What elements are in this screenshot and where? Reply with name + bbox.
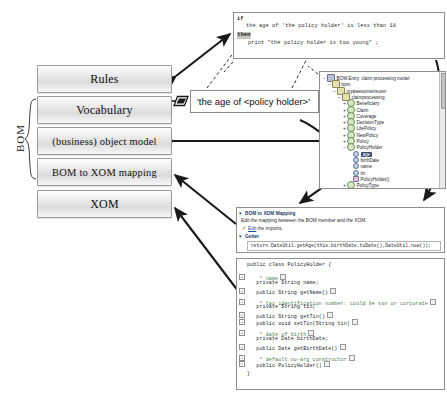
code-collapse-box-icon[interactable] xyxy=(349,355,355,361)
code-fold-icon[interactable]: + xyxy=(239,361,245,367)
stack-layer-vocabulary[interactable]: Vocabulary xyxy=(37,96,172,124)
bom-tree-panel[interactable]: −BOM Entry: claim processing model−bom−m… xyxy=(319,71,446,189)
leader-tree-top xyxy=(308,66,318,74)
stack-layer-vocabulary-label: Vocabulary xyxy=(76,103,132,118)
code-fold-icon[interactable]: + xyxy=(239,312,245,318)
code-line: public class PolicyHolder { xyxy=(247,263,331,268)
mapping-code-text: return DateUtil.getAge(this.birthDate.to… xyxy=(251,243,431,248)
arrow-xom-panel-to-layer xyxy=(175,208,245,300)
leader-rule-editor-tail xyxy=(224,62,233,72)
xom-source-panel[interactable]: public class PolicyHolder {+ * name priv… xyxy=(236,258,445,390)
vocabulary-callout-text: 'the age of <policy holder>' xyxy=(191,96,310,107)
code-line: private String tin; xyxy=(247,305,316,310)
code-fold-icon[interactable]: + xyxy=(239,319,245,325)
class-icon xyxy=(347,181,355,189)
tree-scrollbar[interactable] xyxy=(439,72,445,188)
stack-layer-xom[interactable]: XOM xyxy=(37,190,172,218)
rule-keyword-then: then xyxy=(237,32,251,39)
stack-layer-xom-label: XOM xyxy=(90,197,119,212)
arrow-rules-to-rule-editor xyxy=(176,34,230,76)
mapping-code-editor[interactable]: return DateUtil.getAge(this.birthDate.to… xyxy=(247,241,441,251)
code-collapse-box-icon[interactable] xyxy=(340,344,346,350)
diagram-canvas: BOM Rules Vocabulary (business) object m… xyxy=(0,0,447,402)
arrow-mapping-panel-to-layer xyxy=(175,175,236,224)
rule-condition-text[interactable]: the age of 'the policy holder' is less t… xyxy=(246,23,396,30)
vocabulary-callout-box[interactable]: 'the age of <policy holder>' xyxy=(190,90,319,113)
mapping-imports-line[interactable]: Edit the imports. xyxy=(248,226,283,231)
code-line: public Date getBirthDate() xyxy=(247,344,346,352)
twisty-mapping-icon[interactable]: ▾ xyxy=(239,211,244,216)
code-fold-icon[interactable]: + xyxy=(239,330,245,336)
rule-keyword-if: if xyxy=(237,16,244,23)
rule-action-text[interactable]: print "the policy holder is too young" ; xyxy=(248,40,379,47)
stack-layer-object-model[interactable]: (business) object model xyxy=(37,127,172,155)
code-fold-icon[interactable]: + xyxy=(239,299,245,305)
stack-layer-rules[interactable]: Rules xyxy=(37,65,172,93)
code-line: public void setTin(String tin) xyxy=(247,319,358,327)
stack-layer-bom-to-xom[interactable]: BOM to XOM mapping xyxy=(37,158,172,186)
code-line: private String name; xyxy=(247,281,319,286)
stack-layer-rules-label: Rules xyxy=(90,72,118,87)
code-line: public String getName() xyxy=(247,288,336,296)
code-fold-icon[interactable]: + xyxy=(239,344,245,350)
code-fold-icon[interactable]: + xyxy=(239,355,245,361)
code-collapse-box-icon[interactable] xyxy=(330,288,336,294)
stack-layer-object-model-label: (business) object model xyxy=(52,136,156,147)
tree-row[interactable]: +PolicyType xyxy=(342,181,379,189)
code-collapse-box-icon[interactable] xyxy=(352,319,358,325)
code-line: private Date birthDate; xyxy=(247,337,328,342)
twisty-getter-icon[interactable]: ▾ xyxy=(239,234,244,239)
bom-bracket-label: BOM xyxy=(14,124,26,152)
pencil-icon xyxy=(242,226,246,230)
code-collapse-box-icon[interactable] xyxy=(430,299,436,305)
mapping-description: Edit the mapping between the BOM member … xyxy=(241,218,367,223)
rule-editor-panel[interactable]: if the age of 'the policy holder' is les… xyxy=(233,12,445,59)
mapping-title: BOM to XOM Mapping xyxy=(245,211,295,216)
bom-to-xom-mapping-panel[interactable]: ▾ BOM to XOM Mapping Edit the mapping be… xyxy=(236,207,445,253)
code-fold-icon[interactable]: + xyxy=(239,288,245,294)
parallelogram-icon xyxy=(173,95,189,107)
code-fold-icon[interactable]: + xyxy=(239,274,245,280)
tree-row-label: PolicyType xyxy=(357,183,379,188)
edit-imports-suffix: the imports. xyxy=(256,226,282,231)
code-line: public PolicyHolder() xyxy=(247,361,330,369)
bom-brace xyxy=(25,99,36,179)
stack-layer-bom-to-xom-label: BOM to XOM mapping xyxy=(52,167,157,178)
code-line: } xyxy=(247,372,250,377)
mapping-getter-title: Getter xyxy=(245,234,259,239)
tree-scrollbar-thumb[interactable] xyxy=(441,73,447,109)
code-collapse-box-icon[interactable] xyxy=(324,361,330,367)
code-collapse-box-icon[interactable] xyxy=(327,312,333,318)
